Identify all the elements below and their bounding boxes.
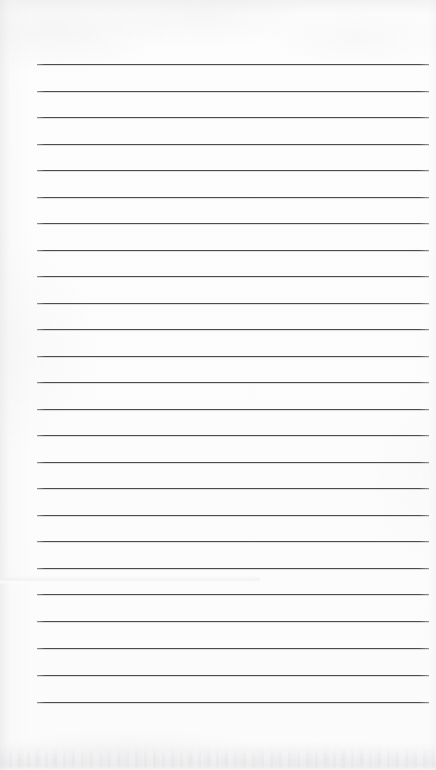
ruled-line bbox=[37, 409, 429, 410]
ruled-line bbox=[37, 648, 429, 649]
ruled-line bbox=[37, 435, 429, 436]
ruled-line bbox=[37, 329, 429, 330]
ruled-line bbox=[37, 568, 429, 569]
ruled-line bbox=[37, 621, 429, 622]
ruled-line bbox=[37, 462, 429, 463]
ruled-line bbox=[37, 91, 429, 92]
ruled-line bbox=[37, 594, 429, 595]
ruled-line bbox=[37, 515, 429, 516]
ruled-line bbox=[37, 276, 429, 277]
ruled-line bbox=[37, 197, 429, 198]
ruled-line bbox=[37, 223, 429, 224]
ruled-line bbox=[37, 303, 429, 304]
ruled-line bbox=[37, 64, 429, 65]
ruled-line bbox=[37, 382, 429, 383]
ruled-line bbox=[37, 675, 429, 676]
ruled-line bbox=[37, 144, 429, 145]
ruled-line bbox=[37, 488, 429, 489]
ruled-line bbox=[37, 170, 429, 171]
ruled-line bbox=[37, 541, 429, 542]
ruled-line bbox=[37, 356, 429, 357]
ruled-lines-layer bbox=[0, 0, 436, 770]
paper-sheet bbox=[0, 0, 436, 770]
ruled-line bbox=[37, 117, 429, 118]
ruled-line bbox=[37, 702, 429, 703]
ruled-line bbox=[37, 250, 429, 251]
